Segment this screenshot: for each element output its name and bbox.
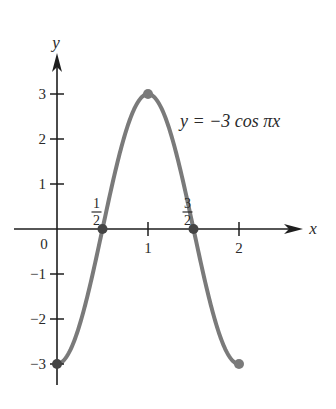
y-tick-label: −3 (30, 356, 46, 372)
x-tick-label: 2 (235, 240, 243, 256)
data-point (234, 359, 244, 369)
y-tick-label: 3 (39, 86, 47, 102)
x-axis-label: x (308, 219, 317, 238)
fraction-numerator: 3 (184, 196, 191, 211)
equation-text: y = −3 cos πx (178, 111, 280, 131)
x-tick-label: 1 (144, 240, 152, 256)
y-tick-label: −2 (30, 311, 46, 327)
chart: 321−1−2−3 121322 y x 0 y = −3 cos πx (0, 0, 336, 409)
data-point (98, 224, 108, 234)
y-tick-label: 2 (39, 131, 47, 147)
data-point (52, 359, 62, 369)
data-point (143, 89, 153, 99)
data-point (189, 224, 199, 234)
y-tick-label: −1 (30, 266, 46, 282)
x-ticks: 121322 (92, 196, 243, 256)
fraction-numerator: 1 (93, 196, 100, 211)
y-axis-label: y (50, 33, 60, 52)
y-tick-label: 1 (39, 176, 47, 192)
equation-annotation: y = −3 cos πx (178, 111, 280, 131)
x-tick-fraction-label: 12 (92, 196, 102, 228)
origin-label: 0 (40, 236, 48, 252)
y-axis (52, 53, 62, 385)
